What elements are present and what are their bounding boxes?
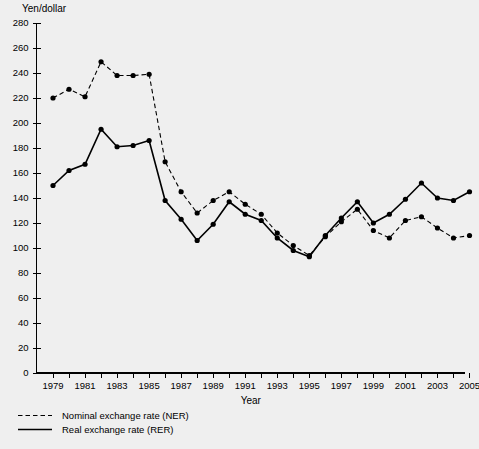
data-point-marker: [451, 235, 456, 240]
data-point-marker: [387, 212, 392, 217]
exchange-rate-chart: Yen/dollar020406080100120140160180200220…: [0, 0, 479, 449]
data-point-marker: [259, 212, 264, 217]
data-point-marker: [227, 189, 232, 194]
data-point-marker: [50, 95, 55, 100]
data-point-marker: [243, 212, 248, 217]
data-point-marker: [435, 225, 440, 230]
y-axis-tick-label: 100: [13, 242, 29, 253]
data-point-marker: [195, 238, 200, 243]
y-axis-tick-label: 200: [13, 117, 29, 128]
data-point-marker: [98, 59, 103, 64]
y-axis-tick-label: 40: [18, 317, 29, 328]
y-axis-tick-label: 280: [13, 17, 29, 28]
data-point-marker: [66, 87, 71, 92]
data-point-marker: [243, 202, 248, 207]
x-axis-tick-label: 1989: [203, 380, 224, 391]
legend-label-ner: Nominal exchange rate (NER): [62, 410, 189, 421]
data-point-marker: [259, 218, 264, 223]
x-axis-tick-label: 1985: [139, 380, 160, 391]
x-axis-tick-label: 1987: [171, 380, 192, 391]
data-point-marker: [179, 217, 184, 222]
data-point-marker: [163, 198, 168, 203]
data-point-marker: [355, 199, 360, 204]
x-axis-tick-label: 2001: [395, 380, 416, 391]
x-axis-tick-label: 1997: [331, 380, 352, 391]
data-point-marker: [98, 127, 103, 132]
y-axis-title: Yen/dollar: [22, 3, 67, 14]
x-axis-tick-label: 1979: [42, 380, 63, 391]
x-axis-tick-label: 1995: [299, 380, 320, 391]
data-point-marker: [403, 197, 408, 202]
data-point-marker: [275, 235, 280, 240]
data-point-marker: [131, 73, 136, 78]
y-axis-tick-label: 240: [13, 67, 29, 78]
data-point-marker: [419, 214, 424, 219]
legend-label-rer: Real exchange rate (RER): [62, 424, 173, 435]
data-point-marker: [339, 215, 344, 220]
data-point-marker: [323, 233, 328, 238]
y-axis-tick-label: 80: [18, 267, 29, 278]
y-axis-tick-label: 60: [18, 292, 29, 303]
data-point-marker: [467, 189, 472, 194]
x-axis-tick-label: 2005: [459, 380, 479, 391]
y-axis-tick-label: 120: [13, 217, 29, 228]
y-axis-tick-label: 0: [23, 367, 28, 378]
y-axis-tick-label: 180: [13, 142, 29, 153]
data-point-marker: [147, 138, 152, 143]
data-point-marker: [195, 210, 200, 215]
y-axis-tick-label: 20: [18, 342, 29, 353]
y-axis-tick-label: 160: [13, 167, 29, 178]
x-axis-tick-label: 2003: [427, 380, 448, 391]
data-point-marker: [211, 222, 216, 227]
data-point-marker: [275, 230, 280, 235]
x-axis-title: Year: [241, 395, 262, 406]
x-axis-tick-label: 1983: [107, 380, 128, 391]
data-point-marker: [387, 235, 392, 240]
data-point-marker: [227, 199, 232, 204]
data-point-marker: [50, 183, 55, 188]
series-line-ner: [53, 62, 470, 256]
y-axis-tick-label: 140: [13, 192, 29, 203]
data-point-marker: [371, 220, 376, 225]
data-point-marker: [82, 94, 87, 99]
data-point-marker: [371, 228, 376, 233]
data-point-marker: [419, 180, 424, 185]
x-axis-tick-label: 1999: [363, 380, 384, 391]
data-point-marker: [114, 144, 119, 149]
data-point-marker: [82, 162, 87, 167]
y-axis-tick-label: 220: [13, 92, 29, 103]
data-point-marker: [147, 72, 152, 77]
data-point-marker: [355, 207, 360, 212]
y-axis-tick-label: 260: [13, 42, 29, 53]
data-point-marker: [114, 73, 119, 78]
data-point-marker: [66, 168, 71, 173]
data-point-marker: [403, 218, 408, 223]
data-point-marker: [435, 195, 440, 200]
data-point-marker: [451, 198, 456, 203]
data-point-marker: [163, 159, 168, 164]
x-axis-tick-label: 1981: [74, 380, 95, 391]
data-point-marker: [307, 254, 312, 259]
x-axis-tick-label: 1993: [267, 380, 288, 391]
data-point-marker: [291, 243, 296, 248]
x-axis-tick-label: 1991: [235, 380, 256, 391]
data-point-marker: [291, 248, 296, 253]
data-point-marker: [131, 143, 136, 148]
data-point-marker: [179, 189, 184, 194]
data-point-marker: [211, 198, 216, 203]
chart-canvas: Yen/dollar020406080100120140160180200220…: [0, 0, 479, 449]
data-point-marker: [467, 233, 472, 238]
